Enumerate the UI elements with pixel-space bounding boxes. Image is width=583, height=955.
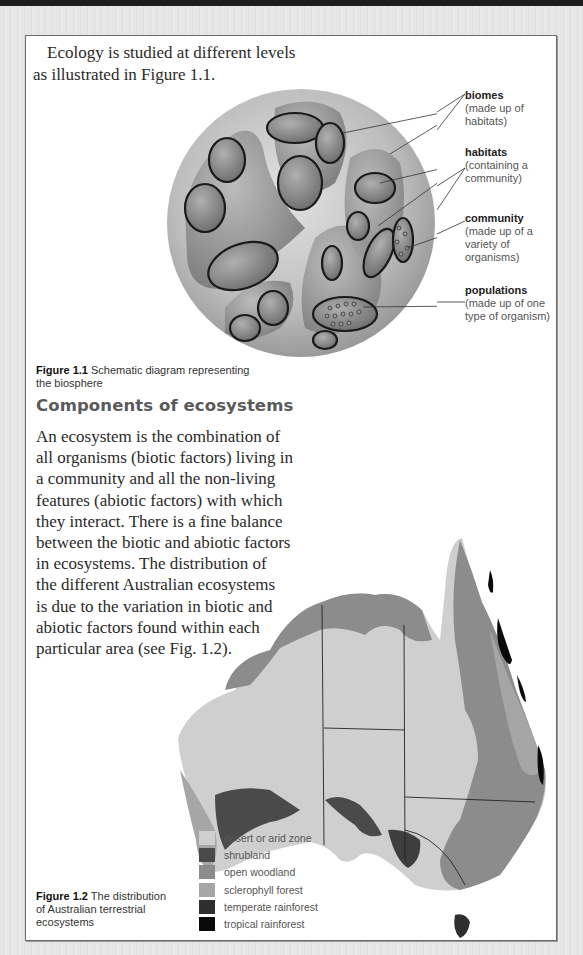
legend-swatch xyxy=(199,883,215,897)
legend-item-tropical-rainforest: tropical rainforest xyxy=(199,915,318,932)
intro-line-1: Ecology is studied at different levels xyxy=(47,43,295,62)
label-populations: populations (made up of one type of orga… xyxy=(465,284,550,323)
legend-swatch xyxy=(199,848,215,862)
legend-item-temperate-rainforest: temperate rainforest xyxy=(199,898,318,915)
legend-item-sclerophyll-forest: sclerophyll forest xyxy=(199,881,318,898)
legend-swatch xyxy=(199,831,215,845)
label-habitats: habitats (containing a community) xyxy=(465,146,528,185)
biosphere-diagram xyxy=(165,88,437,358)
figure-1-1-caption: Figure 1.1 Schematic diagram representin… xyxy=(36,364,249,390)
legend-item-desert: desert or arid zone xyxy=(199,829,318,846)
legend-swatch xyxy=(199,865,215,879)
map-legend: desert or arid zone shrubland open woodl… xyxy=(199,829,318,933)
label-community: community (made up of a variety of organ… xyxy=(465,212,533,264)
section-heading: Components of ecosystems xyxy=(36,396,293,415)
intro-paragraph: Ecology is studied at different levels a… xyxy=(33,42,333,86)
figure-1-2-caption: Figure 1.2 The distribution of Australia… xyxy=(36,890,196,929)
label-biomes: biomes (made up of habitats) xyxy=(465,89,524,128)
leader-lines-extension xyxy=(437,88,467,328)
legend-swatch xyxy=(199,900,215,914)
legend-swatch xyxy=(199,917,215,931)
legend-item-shrubland: shrubland xyxy=(199,846,318,863)
legend-item-open-woodland: open woodland xyxy=(199,864,318,881)
intro-line-2: as illustrated in Figure 1.1. xyxy=(33,64,333,86)
